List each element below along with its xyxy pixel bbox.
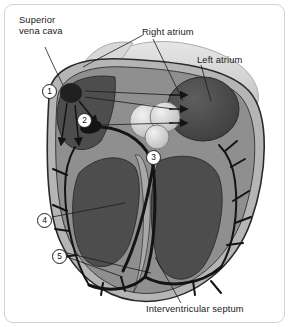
callout-2: 2 [77,113,92,128]
label-interventricular-septum: Interventricular septum [146,304,244,315]
label-right-atrium: Right atrium [142,27,194,38]
label-superior-vena-cava: Superiorvena cava [19,15,63,36]
sinoatrial-node [60,83,82,103]
callout-3: 3 [146,150,161,165]
figure-card: Superiorvena cava Right atrium Left atri… [4,4,285,323]
heart-anatomy-diagram [5,5,285,323]
label-left-atrium: Left atrium [197,55,242,66]
callout-5: 5 [52,249,67,264]
callout-1: 1 [42,84,57,99]
callout-4: 4 [37,213,52,228]
